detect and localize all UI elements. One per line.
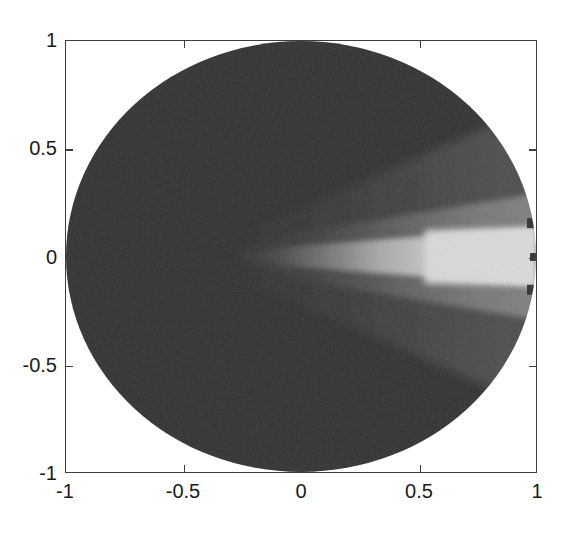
plot-axes-box — [65, 40, 537, 473]
x-tick-label-1: 1 — [531, 481, 542, 501]
x-tick-mark-top-0 — [302, 41, 303, 48]
x-tick-label-0p5: 0.5 — [405, 481, 433, 501]
y-tick-label-0p5: 0.5 — [29, 138, 57, 158]
y-tick-mark-0p5 — [66, 149, 73, 150]
x-tick-mark-neg0p5 — [184, 465, 185, 472]
y-tick-mark-right-neg0p5 — [529, 366, 536, 367]
heatmap-image — [66, 41, 536, 472]
figure-canvas: 1 0.5 0 -0.5 -1 -1 -0.5 0 0.5 1 — [0, 0, 576, 538]
y-tick-label-1: 1 — [46, 30, 57, 50]
y-tick-label-neg1: -1 — [39, 463, 57, 483]
y-tick-mark-right-0p5 — [529, 149, 536, 150]
y-tick-mark-0 — [66, 258, 73, 259]
y-tick-label-0: 0 — [46, 247, 57, 267]
x-tick-mark-top-0p5 — [420, 41, 421, 48]
x-tick-label-neg0p5: -0.5 — [166, 481, 200, 501]
x-tick-mark-0 — [302, 465, 303, 472]
x-tick-label-0: 0 — [295, 481, 306, 501]
x-tick-label-neg1: -1 — [56, 481, 74, 501]
y-tick-mark-neg0p5 — [66, 366, 73, 367]
y-tick-mark-right-0 — [529, 258, 536, 259]
y-tick-label-neg0p5: -0.5 — [23, 355, 57, 375]
x-tick-mark-0p5 — [420, 465, 421, 472]
x-tick-mark-top-neg0p5 — [184, 41, 185, 48]
